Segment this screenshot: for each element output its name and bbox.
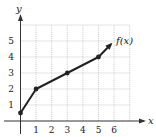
y-tick-label: 5	[8, 36, 14, 46]
x-tick-label: 6	[111, 125, 117, 135]
y-tick-label: 3	[8, 68, 14, 78]
y-axis-arrow-icon	[18, 14, 23, 21]
x-tick-label: 2	[49, 125, 55, 135]
function-label: f(x)	[115, 35, 133, 46]
y-tick-label: 4	[8, 52, 14, 62]
grid	[21, 25, 130, 121]
fx-curve	[21, 44, 111, 113]
tick-labels: 12345612345	[8, 36, 117, 135]
x-tick-label: 1	[33, 125, 39, 135]
data-point	[96, 55, 101, 60]
data-point	[65, 71, 70, 76]
x-tick-label: 5	[96, 125, 102, 135]
x-axis-arrow-icon	[139, 119, 146, 124]
data-point	[34, 87, 39, 92]
x-axis-label: x	[148, 115, 154, 126]
function-graph: 12345612345 x y f(x)	[0, 0, 156, 137]
x-tick-label: 3	[64, 125, 70, 135]
y-tick-label: 2	[8, 84, 14, 94]
y-axis-label: y	[15, 3, 22, 14]
x-tick-label: 4	[80, 125, 86, 135]
axes	[4, 14, 146, 134]
y-tick-label: 1	[8, 100, 14, 110]
data-point	[18, 111, 23, 116]
